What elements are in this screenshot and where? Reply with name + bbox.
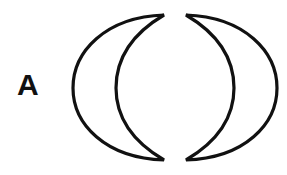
crescent-diagram [0, 0, 287, 175]
left-crescent [73, 15, 164, 160]
right-crescent [186, 15, 277, 160]
